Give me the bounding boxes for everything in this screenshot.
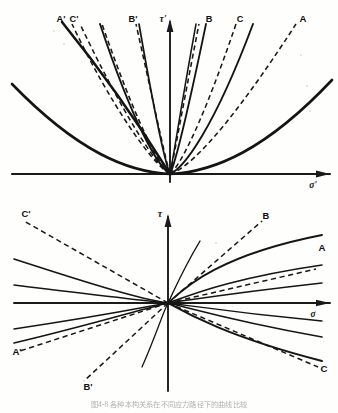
bottom-plot-panel: C' τ B A σ A' B' C: [0, 195, 338, 395]
scan-speck: [53, 30, 55, 32]
top-axis-label-sigma-prime: σ': [309, 180, 317, 190]
figure-caption: 图4-8 各种本构关系在不同应力路径下的曲线比较: [0, 400, 338, 410]
bottom-label-C-prime: C': [22, 208, 31, 219]
top-axis-label-tau-prime: τ': [160, 13, 167, 24]
scan-speck: [300, 54, 302, 56]
top-label-A-prime: A': [57, 14, 66, 24]
top-plot-solid-curves: [12, 22, 332, 174]
bottom-plot-svg: C' τ B A σ A' B' C: [0, 195, 338, 395]
bottom-axis-label-sigma: σ: [310, 309, 316, 319]
top-label-B: B: [206, 14, 213, 24]
scan-speck: [63, 43, 65, 45]
top-plot-svg: A' C' B' τ' B C A σ': [0, 0, 338, 195]
top-label-C-prime: C': [70, 14, 79, 24]
figure-caption-strip: 图4-8 各种本构关系在不同应力路径下的曲线比较: [0, 396, 338, 413]
top-label-B-prime: B': [129, 14, 138, 24]
top-plot-dashed-curves: [72, 24, 296, 174]
bottom-label-C: C: [321, 363, 328, 374]
figure-root: A' C' B' τ' B C A σ': [0, 0, 338, 413]
bottom-label-B-prime: B': [84, 381, 93, 392]
bottom-label-A-prime: A': [12, 346, 21, 357]
scan-speck: [306, 85, 308, 87]
top-plot-axes: [12, 19, 330, 182]
bottom-axis-label-tau: τ: [158, 208, 163, 219]
top-label-A: A: [300, 13, 307, 24]
bottom-label-B: B: [263, 210, 270, 221]
bottom-label-A: A: [319, 242, 326, 253]
scan-speck: [215, 242, 217, 244]
top-plot-panel: A' C' B' τ' B C A σ': [0, 0, 338, 195]
scan-speck: [309, 110, 311, 112]
top-label-C: C: [237, 14, 244, 24]
